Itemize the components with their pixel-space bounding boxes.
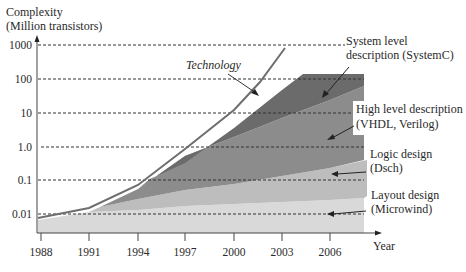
y-axis-arrow-icon: [35, 35, 40, 42]
x-tick-1991: 1991: [78, 246, 101, 258]
x-tick-2000: 2000: [223, 246, 246, 258]
x-axis-title: Year: [373, 239, 395, 253]
x-ticks: [41, 233, 330, 241]
logic-label-line1: Logic design: [370, 147, 432, 161]
y-tick-1000: 1000: [9, 39, 32, 51]
x-tick-1997: 1997: [174, 246, 197, 258]
high-label-line2: (VHDL, Verilog): [356, 117, 438, 131]
logic-label-line2: (Dsch): [370, 161, 403, 175]
y-tick-labels: 1000 100 10 1.0 0.1 0.01: [9, 39, 32, 220]
x-tick-2003: 2003: [271, 246, 294, 258]
system-label-line2: description (SystemC): [346, 48, 454, 62]
x-tick-labels: 1988 1991 1994 1997 2000 2003 2006: [30, 246, 342, 258]
x-tick-2006: 2006: [319, 246, 342, 258]
layout-label-line2: (Microwind): [371, 202, 432, 216]
y-tick-10: 10: [21, 107, 33, 119]
y-axis-title-line1: Complexity: [6, 5, 63, 19]
y-tick-100: 100: [15, 73, 33, 85]
x-axis-arrow-icon: [375, 231, 382, 236]
technology-label: Technology: [186, 58, 242, 72]
layout-label-line1: Layout design: [371, 188, 439, 202]
y-axis-title-line2: (Million transistors): [6, 19, 102, 33]
y-tick-1: 1.0: [18, 141, 33, 153]
high-label-line1: High level description: [356, 102, 463, 116]
system-label-line1: System level: [346, 34, 408, 48]
y-tick-0-01: 0.01: [12, 208, 32, 220]
y-tick-0-1: 0.1: [18, 174, 33, 186]
x-tick-1994: 1994: [127, 246, 150, 258]
x-tick-1988: 1988: [30, 246, 53, 258]
technology-arrow: [228, 74, 256, 93]
complexity-chart: Complexity (Million transistors) 1000 10…: [0, 0, 466, 272]
